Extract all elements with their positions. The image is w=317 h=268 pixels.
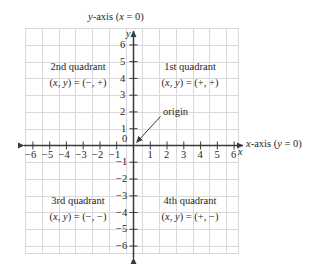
y-tick-label-neg2: −2 [116,174,127,185]
x-tick-label-4: 4 [198,150,203,161]
x-tick-label-neg6: −6 [25,150,36,161]
axes-group [0,0,317,268]
quadrant-2-signs: (x, y) = (−, +) [33,78,123,89]
x-tick-label-neg5: −5 [42,150,53,161]
quadrant-2-name: 2nd quadrant [33,62,123,73]
quadrant-4-name: 4th quadrant [145,196,235,207]
x-variable-label: x [238,147,242,157]
x-tick-label-neg4: −4 [59,150,70,161]
y-tick-label-neg6: −6 [116,241,127,252]
quadrant-label-1: 1st quadrant (x, y) = (+, +) [145,62,235,88]
quadrant-label-4: 4th quadrant (x, y) = (+, −) [145,196,235,222]
y-axis-title: y-axis (x = 0) [88,12,144,23]
quadrant-1-signs: (x, y) = (+, +) [145,78,235,89]
origin-pointer-line [137,117,161,143]
origin-zero-label: 0 [122,134,127,145]
x-tick-label-3: 3 [181,150,186,161]
x-tick-label-neg3: −3 [76,150,87,161]
coordinate-plane-figure: y-axis (x = 0) x-axis (y = 0) y x origin… [0,0,317,268]
y-variable-label: y [126,29,130,39]
y-tick-label-6: 6 [120,40,125,51]
y-tick-label-1: 1 [121,124,126,135]
x-tick-label-2: 2 [164,150,169,161]
quadrant-3-name: 3rd quadrant [33,196,123,207]
quadrant-4-signs: (x, y) = (+, −) [145,212,235,223]
origin-label: origin [163,107,188,118]
y-tick-label-2: 2 [120,107,125,118]
quadrant-label-3: 3rd quadrant (x, y) = (−, −) [33,196,123,222]
x-tick-label-neg2: −2 [92,150,103,161]
y-tick-label-3: 3 [120,90,125,101]
x-axis-title: x-axis (y = 0) [246,139,302,150]
quadrant-3-signs: (x, y) = (−, −) [33,212,123,223]
x-tick-label-5: 5 [215,150,220,161]
quadrant-label-2: 2nd quadrant (x, y) = (−, +) [33,62,123,88]
y-tick-label-neg5: −5 [116,224,127,235]
x-tick-label-6: 6 [231,150,236,161]
y-tick-label-neg1: −1 [116,157,127,168]
quadrant-1-name: 1st quadrant [145,62,235,73]
x-tick-label-1: 1 [148,150,153,161]
